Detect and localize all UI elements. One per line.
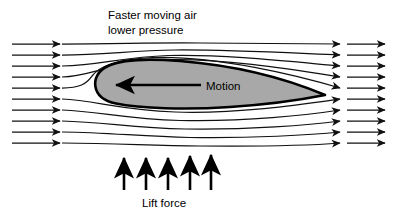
top-label-line2: lower pressure xyxy=(108,24,183,36)
motion-label: Motion xyxy=(206,79,241,94)
top-label-line1: Faster moving air xyxy=(108,9,197,21)
streamline-1 xyxy=(12,43,385,44)
streamline-8 xyxy=(12,121,385,129)
airfoil-lift-diagram: Faster moving airlower pressure Motion L… xyxy=(0,0,415,218)
streamline-10 xyxy=(12,143,385,146)
streamline-9 xyxy=(12,132,385,138)
faster-moving-air-label: Faster moving airlower pressure xyxy=(108,8,197,37)
lift-force-label: Lift force xyxy=(142,196,186,211)
lift-arrows-group xyxy=(124,155,211,190)
streamline-2 xyxy=(12,50,385,55)
diagram-canvas xyxy=(0,0,415,218)
